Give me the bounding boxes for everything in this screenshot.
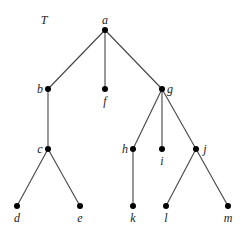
edge-j-l [166,149,196,206]
node-k [130,203,136,209]
node-j [193,146,199,152]
node-label-g: g [167,82,173,96]
tree-nodes: abfgchijdeklm [14,13,233,225]
node-label-b: b [37,82,43,96]
edge-c-e [48,149,80,206]
node-i [159,146,165,152]
node-label-i: i [160,154,163,168]
node-f [102,86,108,92]
node-label-c: c [37,142,43,156]
edge-g-h [133,89,162,149]
node-label-j: j [201,142,207,156]
node-label-a: a [102,13,108,27]
node-label-m: m [224,211,233,225]
node-e [77,203,83,209]
node-label-h: h [122,142,128,156]
node-a [102,27,108,33]
node-label-d: d [14,211,21,225]
node-c [45,146,51,152]
tree-title: T [41,13,49,27]
edge-a-g [105,30,162,89]
edge-g-j [162,89,196,149]
tree-edges [17,30,228,206]
node-label-f: f [103,94,108,108]
node-l [163,203,169,209]
node-h [130,146,136,152]
node-g [159,86,165,92]
node-label-e: e [77,211,83,225]
node-d [14,203,20,209]
edge-c-d [17,149,48,206]
edge-j-m [196,149,228,206]
tree-diagram: T abfgchijdeklm [0,0,247,229]
node-m [225,203,231,209]
node-b [45,86,51,92]
node-label-k: k [130,211,136,225]
edge-a-b [48,30,105,89]
node-label-l: l [164,211,168,225]
